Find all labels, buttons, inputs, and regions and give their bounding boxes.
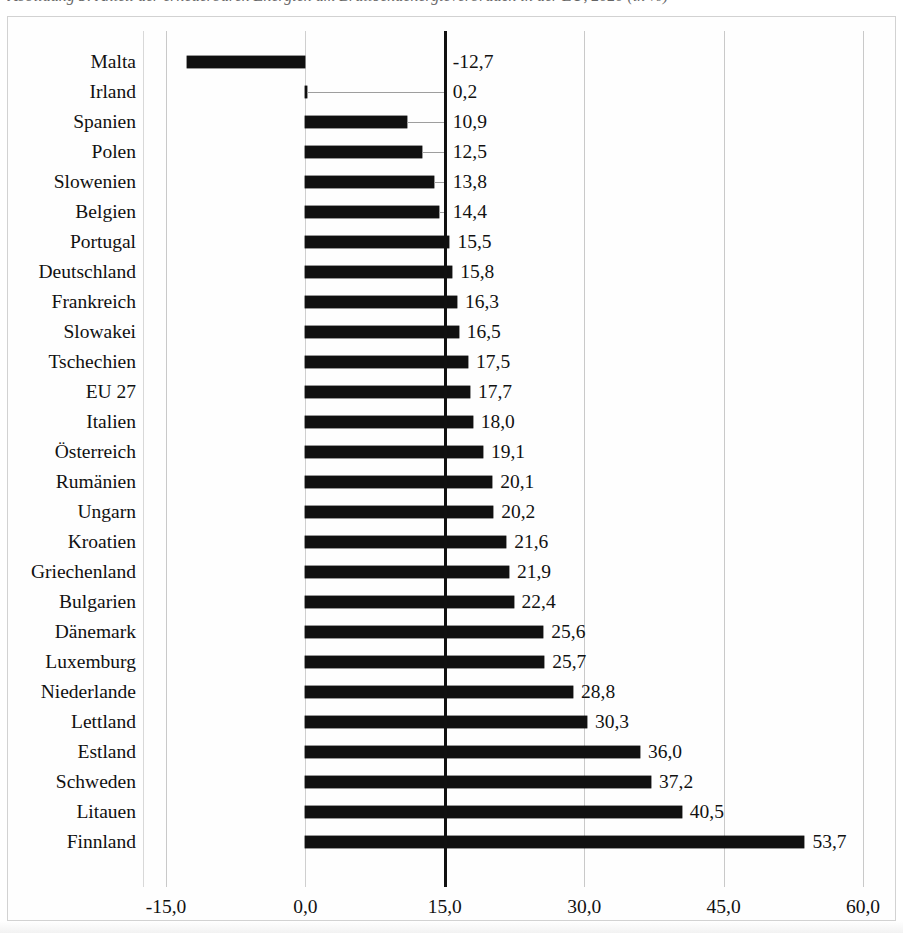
bar xyxy=(305,806,681,818)
value-label: 15,5 xyxy=(457,227,491,257)
category-label: Slowakei xyxy=(8,317,136,347)
value-label: 30,3 xyxy=(595,707,629,737)
category-label: Belgien xyxy=(8,197,136,227)
value-label: 17,5 xyxy=(476,347,510,377)
chart-row: Kroatien21,6 xyxy=(166,527,863,557)
gridline-60 xyxy=(863,31,864,887)
caption-text: Abbildung 5: Anteil der erneuerbaren Ene… xyxy=(8,0,668,5)
value-label: 36,0 xyxy=(648,737,682,767)
value-label: 17,7 xyxy=(478,377,512,407)
value-label: 19,1 xyxy=(491,437,525,467)
chart-row: Portugal15,5 xyxy=(166,227,863,257)
category-label: Luxemburg xyxy=(8,647,136,677)
category-label: Slowenien xyxy=(8,167,136,197)
chart-row: Frankreich16,3 xyxy=(166,287,863,317)
bar xyxy=(305,446,483,458)
cut-off-caption: Abbildung 5: Anteil der erneuerbaren Ene… xyxy=(0,0,903,13)
value-label: 18,0 xyxy=(481,407,515,437)
x-axis-tick-labels: -15,00,015,030,045,060,0 xyxy=(166,893,863,923)
value-label: 20,2 xyxy=(501,497,535,527)
category-label: Polen xyxy=(8,137,136,167)
chart-row: Dänemark25,6 xyxy=(166,617,863,647)
category-label: Italien xyxy=(8,407,136,437)
bar xyxy=(305,656,544,668)
x-tick-label: 30,0 xyxy=(567,893,601,921)
value-label: -12,7 xyxy=(453,47,494,77)
value-label: 10,9 xyxy=(453,107,487,137)
chart-row: Luxemburg25,7 xyxy=(166,647,863,677)
category-label: Österreich xyxy=(8,437,136,467)
bar xyxy=(305,266,452,278)
bar xyxy=(305,176,433,188)
category-label: Kroatien xyxy=(8,527,136,557)
category-label: Ungarn xyxy=(8,497,136,527)
category-label: Deutschland xyxy=(8,257,136,287)
category-label: Schweden xyxy=(8,767,136,797)
value-label: 16,3 xyxy=(465,287,499,317)
value-label: 37,2 xyxy=(659,767,693,797)
leader-line xyxy=(407,122,445,123)
value-label: 13,8 xyxy=(453,167,487,197)
category-label: Niederlande xyxy=(8,677,136,707)
category-label: Portugal xyxy=(8,227,136,257)
value-label: 20,1 xyxy=(500,467,534,497)
chart-row: Slowenien13,8 xyxy=(166,167,863,197)
value-label: 22,4 xyxy=(522,587,556,617)
bar xyxy=(305,776,651,788)
chart-row: Lettland30,3 xyxy=(166,707,863,737)
chart-row: Spanien10,9 xyxy=(166,107,863,137)
chart-row: Malta-12,7 xyxy=(166,47,863,77)
value-label: 53,7 xyxy=(812,827,846,857)
category-label: Irland xyxy=(8,77,136,107)
value-label: 28,8 xyxy=(581,677,615,707)
value-label: 25,6 xyxy=(551,617,585,647)
chart-row: Litauen40,5 xyxy=(166,797,863,827)
chart-row: Tschechien17,5 xyxy=(166,347,863,377)
bar xyxy=(305,746,640,758)
leader-line xyxy=(422,152,445,153)
bar xyxy=(305,116,406,128)
category-label: Spanien xyxy=(8,107,136,137)
chart-row: Slowakei16,5 xyxy=(166,317,863,347)
value-label: 21,6 xyxy=(514,527,548,557)
value-label: 21,9 xyxy=(517,557,551,587)
bar xyxy=(305,596,513,608)
x-tick-label: 45,0 xyxy=(707,893,741,921)
chart-row: Schweden37,2 xyxy=(166,767,863,797)
chart-row: Bulgarien22,4 xyxy=(166,587,863,617)
chart-row: EU 2717,7 xyxy=(166,377,863,407)
chart-row: Irland0,2 xyxy=(166,77,863,107)
category-label-divider xyxy=(143,31,144,887)
bar xyxy=(305,626,543,638)
category-label: Rumänien xyxy=(8,467,136,497)
bar xyxy=(305,146,421,158)
chart-row: Ungarn20,2 xyxy=(166,497,863,527)
chart-row: Belgien14,4 xyxy=(166,197,863,227)
chart-row: Rumänien20,1 xyxy=(166,467,863,497)
x-tick-label: 60,0 xyxy=(846,893,880,921)
category-label: Litauen xyxy=(8,797,136,827)
bar xyxy=(305,836,804,848)
x-tick-label: 0,0 xyxy=(293,893,317,921)
x-tick-label: -15,0 xyxy=(146,893,187,921)
category-label: Tschechien xyxy=(8,347,136,377)
category-label: EU 27 xyxy=(8,377,136,407)
category-label: Dänemark xyxy=(8,617,136,647)
bar xyxy=(305,566,509,578)
leader-line xyxy=(307,92,445,93)
bar xyxy=(305,206,439,218)
category-label: Frankreich xyxy=(8,287,136,317)
category-label: Estland xyxy=(8,737,136,767)
chart-row: Polen12,5 xyxy=(166,137,863,167)
bar xyxy=(305,296,456,308)
chart-row: Finnland53,7 xyxy=(166,827,863,857)
bar xyxy=(305,326,458,338)
x-tick-label: 15,0 xyxy=(428,893,462,921)
category-label: Bulgarien xyxy=(8,587,136,617)
reference-line-15 xyxy=(444,31,447,887)
chart-row: Österreich19,1 xyxy=(166,437,863,467)
bar xyxy=(305,536,506,548)
chart-row: Estland36,0 xyxy=(166,737,863,767)
chart-row: Deutschland15,8 xyxy=(166,257,863,287)
bar xyxy=(187,56,305,68)
